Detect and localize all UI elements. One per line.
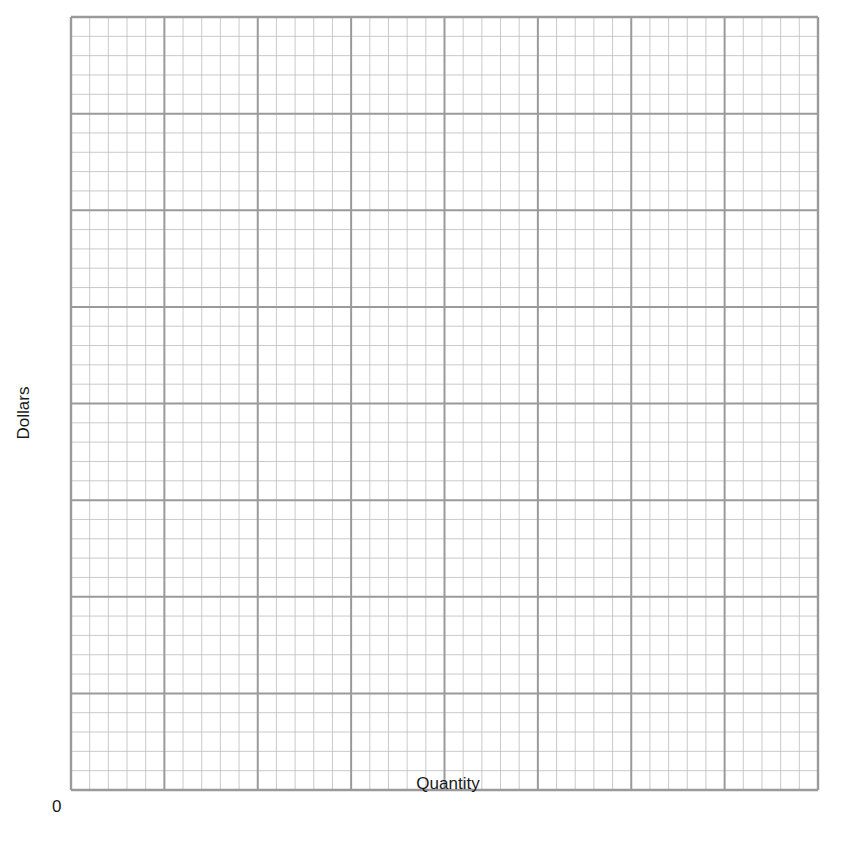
x-axis-label: Quantity (416, 774, 479, 794)
origin-label: 0 (52, 797, 61, 817)
y-axis-label: Dollars (14, 387, 34, 440)
graph-paper-grid (0, 0, 859, 857)
